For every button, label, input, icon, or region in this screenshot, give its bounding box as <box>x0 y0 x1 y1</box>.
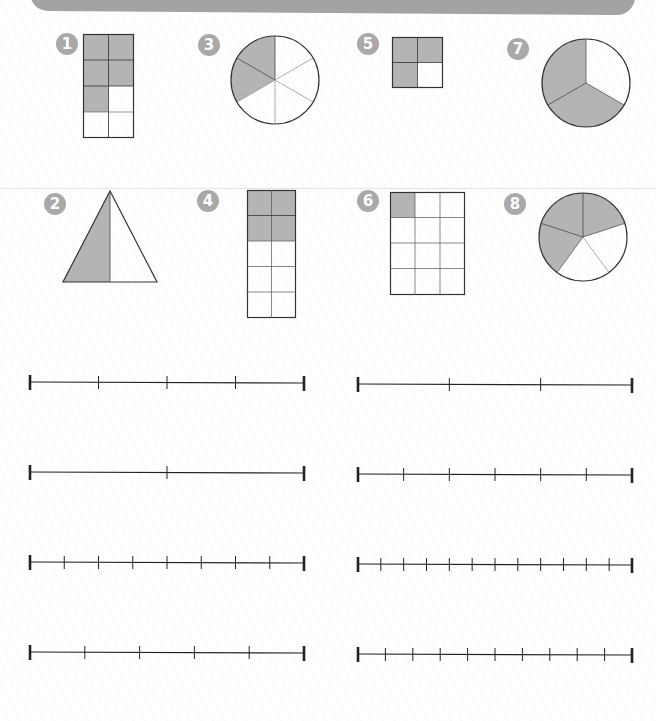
problem-number-badge: 6 <box>357 190 379 212</box>
number-line <box>356 644 636 664</box>
number-line <box>356 374 636 394</box>
problem-number-badge: 7 <box>507 38 529 60</box>
number-line <box>28 372 308 392</box>
problem-7-circle <box>541 38 631 128</box>
problem-number-badge: 4 <box>197 190 219 212</box>
problem-number-badge: 1 <box>56 33 78 55</box>
fold-line <box>0 188 656 189</box>
problem-3-circle <box>230 35 320 125</box>
number-line <box>28 642 308 662</box>
problem-6-rectangle-grid <box>390 192 466 296</box>
number-line <box>28 552 308 572</box>
number-line <box>28 462 308 482</box>
problem-5-square-grid <box>392 37 444 89</box>
number-line <box>356 554 636 574</box>
number-line <box>356 464 636 484</box>
problem-2-triangle <box>62 190 158 284</box>
problem-number-badge: 5 <box>357 33 379 55</box>
problem-number-badge: 3 <box>198 34 220 56</box>
problem-8-circle <box>538 192 628 282</box>
problem-number-badge: 8 <box>504 193 526 215</box>
problem-1-rectangle-grid <box>83 34 135 138</box>
problem-4-rectangle-grid <box>247 190 297 320</box>
